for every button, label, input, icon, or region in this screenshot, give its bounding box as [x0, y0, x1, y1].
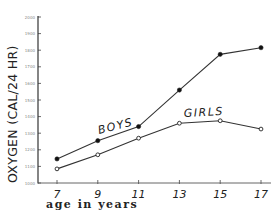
- y-tick-label: 1500: [25, 98, 36, 103]
- series-girls: [55, 119, 263, 171]
- oxygen-consumption-chart: OXYGEN (CAL/24 HR) 100011001200130014001…: [0, 0, 279, 222]
- data-series: [55, 46, 263, 171]
- y-tick-label: 1900: [25, 31, 36, 36]
- series-label-girls: GIRLS: [183, 105, 224, 120]
- y-tick-label: 1700: [25, 64, 36, 69]
- y-tick-label: 1200: [25, 147, 36, 152]
- y-tick-label: 1100: [25, 164, 36, 169]
- open-data-point-marker: [178, 121, 182, 125]
- series-boys: [55, 46, 263, 161]
- y-axis-label: OXYGEN (CAL/24 HR): [5, 45, 20, 183]
- y-tick-label: 2000: [25, 15, 36, 20]
- y-tick-label: 1300: [25, 131, 36, 136]
- open-data-point-marker: [96, 153, 100, 157]
- filled-data-point-marker: [259, 46, 263, 50]
- filled-data-point-marker: [218, 52, 222, 56]
- open-data-point-marker: [259, 127, 263, 131]
- x-tick-label: 17: [254, 188, 268, 201]
- filled-data-point-marker: [55, 157, 59, 161]
- open-data-point-marker: [218, 119, 222, 123]
- x-tick-label: 13: [172, 188, 186, 201]
- open-data-point-marker: [137, 136, 141, 140]
- y-tick-label: 1600: [25, 81, 36, 86]
- x-axis-label: age in years: [46, 198, 138, 211]
- filled-data-point-marker: [177, 88, 181, 92]
- y-tick-label: 1400: [25, 114, 36, 119]
- svg-text:OXYGEN (CAL/24 HR): OXYGEN (CAL/24 HR): [5, 45, 20, 183]
- filled-data-point-marker: [96, 139, 100, 143]
- filled-data-point-marker: [137, 124, 141, 128]
- series-line-boys: [57, 48, 261, 159]
- y-tick-label: 1800: [25, 48, 36, 53]
- y-tick-label: 1000: [25, 181, 36, 186]
- series-label-boys: BOYS: [97, 116, 135, 137]
- x-tick-label: 15: [213, 188, 227, 201]
- open-data-point-marker: [55, 167, 59, 171]
